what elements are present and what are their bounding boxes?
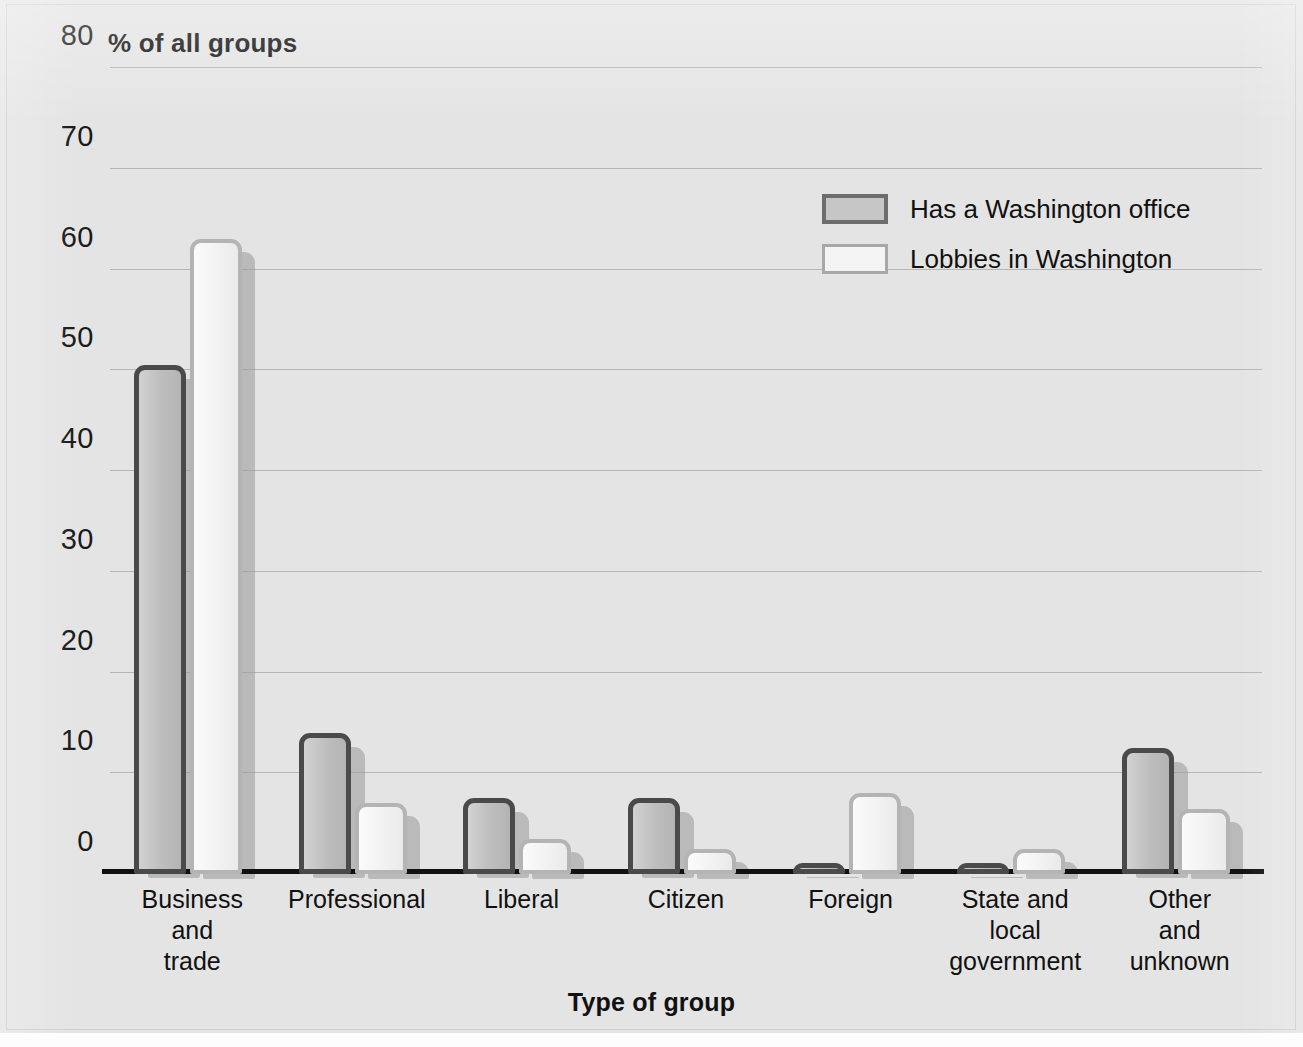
bar [1013,849,1065,874]
x-axis-tick-label-line: and [1080,915,1280,946]
bar [793,863,845,874]
bar-shadow [368,816,420,879]
bar [299,733,351,874]
bar [519,839,571,874]
bar [190,239,242,874]
x-axis-tick-labels: BusinessandtradeProfessionalLiberalCitiz… [110,884,1262,984]
legend-swatch [822,194,888,224]
bar-group [297,68,417,874]
bar [355,803,407,874]
y-axis-tick-label: 30 [4,522,94,555]
bar [957,863,1009,874]
bar-group [132,68,252,874]
bar-shadow [1191,822,1243,879]
y-axis-tick-label: 0 [4,825,94,858]
x-axis-tick-label-line: unknown [1080,946,1280,977]
legend-label: Has a Washington office [910,194,1190,225]
bar [628,798,680,874]
bar [1178,809,1230,874]
bar [463,798,515,874]
y-axis-tick-label: 20 [4,623,94,656]
y-axis-tick-label: 10 [4,724,94,757]
bar-shadow [532,852,584,879]
y-axis-tick-label: 60 [4,220,94,253]
page-margin-strip [0,1033,1303,1047]
chart-legend: Has a Washington officeLobbies in Washin… [822,188,1190,288]
bar-shadow [697,862,749,879]
bar-group [626,68,746,874]
y-axis-tick-label: 80 [4,19,94,52]
bar-group [461,68,581,874]
x-axis-title: Type of group [0,988,1303,1017]
bar [1122,748,1174,874]
legend-item: Has a Washington office [822,188,1190,230]
legend-swatch [822,244,888,274]
y-axis-tick-label: 40 [4,422,94,455]
bar [684,849,736,874]
chart-figure: % of all groups 01020304050607080 Busine… [0,0,1303,1047]
bar-shadow [971,877,1023,878]
x-axis-tick-label-line: trade [92,946,292,977]
x-axis-tick-label-line: Other [1080,884,1280,915]
bar-shadow [862,806,914,879]
y-axis-tick-label: 50 [4,321,94,354]
y-axis-title: % of all groups [108,28,297,59]
bar [849,793,901,874]
bar-shadow [807,877,859,878]
x-axis-tick-label-line: and [92,915,292,946]
x-axis-tick-label: Otherandunknown [1080,884,1280,977]
bar-shadow [203,252,255,879]
y-axis-tick-label: 70 [4,119,94,152]
bar-shadow [1026,862,1078,879]
legend-label: Lobbies in Washington [910,244,1172,275]
bar [134,365,186,874]
legend-item: Lobbies in Washington [822,238,1190,280]
